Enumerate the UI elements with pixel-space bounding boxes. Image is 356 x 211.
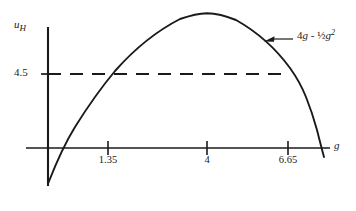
x-axis-label: g — [334, 140, 340, 151]
equation-operator: - — [308, 29, 317, 41]
annotation-arrow-icon — [264, 36, 293, 42]
y-axis-label-subscript: H — [20, 23, 27, 33]
y-tick-label-4-5: 4.5 — [14, 67, 28, 78]
x-tick-label-6-65: 6.65 — [279, 155, 297, 166]
y-axis-label: uH — [14, 19, 26, 33]
equation-exponent: 2 — [331, 28, 335, 37]
chart-figure: uH g 4.5 1.35 4 6.65 4g - ½g2 — [0, 0, 356, 211]
x-tick-label-4: 4 — [204, 155, 209, 166]
curve-equation-annotation: 4g - ½g2 — [297, 29, 335, 41]
x-tick-label-1-35: 1.35 — [99, 155, 117, 166]
